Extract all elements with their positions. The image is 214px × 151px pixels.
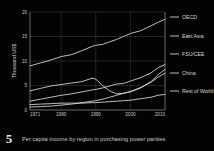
y-tick-15: 15 [22, 34, 28, 39]
legend-label-oecd: OECD [182, 14, 197, 20]
data-series-group [30, 19, 165, 107]
y-axis-title: Thousand US$ [11, 44, 17, 79]
figure-panel: 05101520 19711980199020002010 OECDEast A… [0, 0, 214, 151]
gridlines-group [30, 12, 165, 110]
x-tick-1990: 1990 [91, 112, 102, 117]
y-axis-tick-labels: 05101520 [22, 10, 28, 113]
x-tick-1980: 1980 [56, 112, 67, 117]
series-line-china [30, 73, 165, 107]
x-tick-2000: 2000 [125, 112, 136, 117]
figure-caption-text: Per capita income by region in purchasin… [18, 136, 214, 142]
figure-caption-row: 5 Per capita income by region in purchas… [0, 126, 214, 151]
legend-label-fsu-cee: FSU/CEE [182, 51, 205, 57]
legend-label-china: China [182, 70, 196, 76]
y-tick-10: 10 [22, 59, 28, 64]
series-line-east-asia [30, 64, 165, 101]
series-line-rest-of-world [30, 94, 165, 104]
y-tick-5: 5 [24, 83, 27, 88]
chart-plot-region: 05101520 19711980199020002010 OECDEast A… [0, 2, 214, 124]
y-tick-20: 20 [22, 10, 28, 15]
series-line-oecd [30, 19, 165, 66]
y-tick-0: 0 [24, 108, 27, 113]
x-axis-tick-labels: 19711980199020002010 [30, 112, 165, 117]
line-chart: 05101520 19711980199020002010 OECDEast A… [0, 2, 214, 124]
chart-legend: OECDEast AsiaFSU/CEEChinaRest of World [170, 14, 213, 94]
x-tick-2010: 2010 [155, 112, 166, 117]
series-line-fsu-cee [30, 69, 165, 94]
figure-number: 5 [0, 132, 18, 145]
legend-label-east-asia: East Asia [182, 33, 204, 39]
legend-label-rest-of-world: Rest of World [182, 88, 213, 94]
x-tick-1971: 1971 [30, 112, 41, 117]
